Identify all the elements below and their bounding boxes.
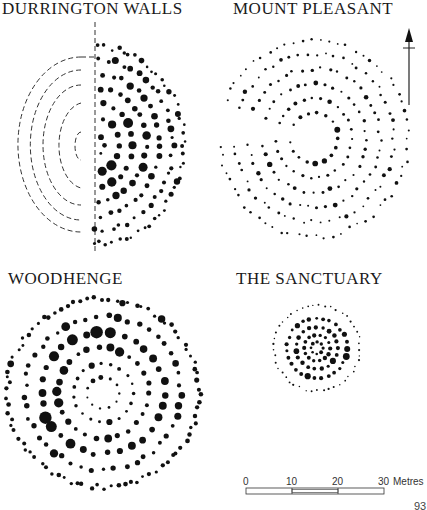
scale-unit-label: Metres (393, 476, 424, 487)
scale-tick-0: 0 (243, 476, 249, 487)
durrington-walls-plan (18, 22, 186, 252)
scale-tick-20: 20 (332, 476, 344, 487)
woodhenge-plan (4, 295, 203, 491)
scale-bar: 0 10 20 30 Metres (243, 476, 424, 494)
mount-pleasant-plan (220, 38, 410, 239)
page-number: 93 (414, 500, 426, 510)
henge-plans-canvas: 0 10 20 30 Metres (0, 0, 427, 510)
north-arrow-icon (403, 28, 415, 105)
scale-tick-30: 30 (378, 476, 390, 487)
sanctuary-plan (272, 304, 360, 392)
dashed-reconstruction-rings (18, 22, 95, 252)
scale-tick-10: 10 (286, 476, 298, 487)
